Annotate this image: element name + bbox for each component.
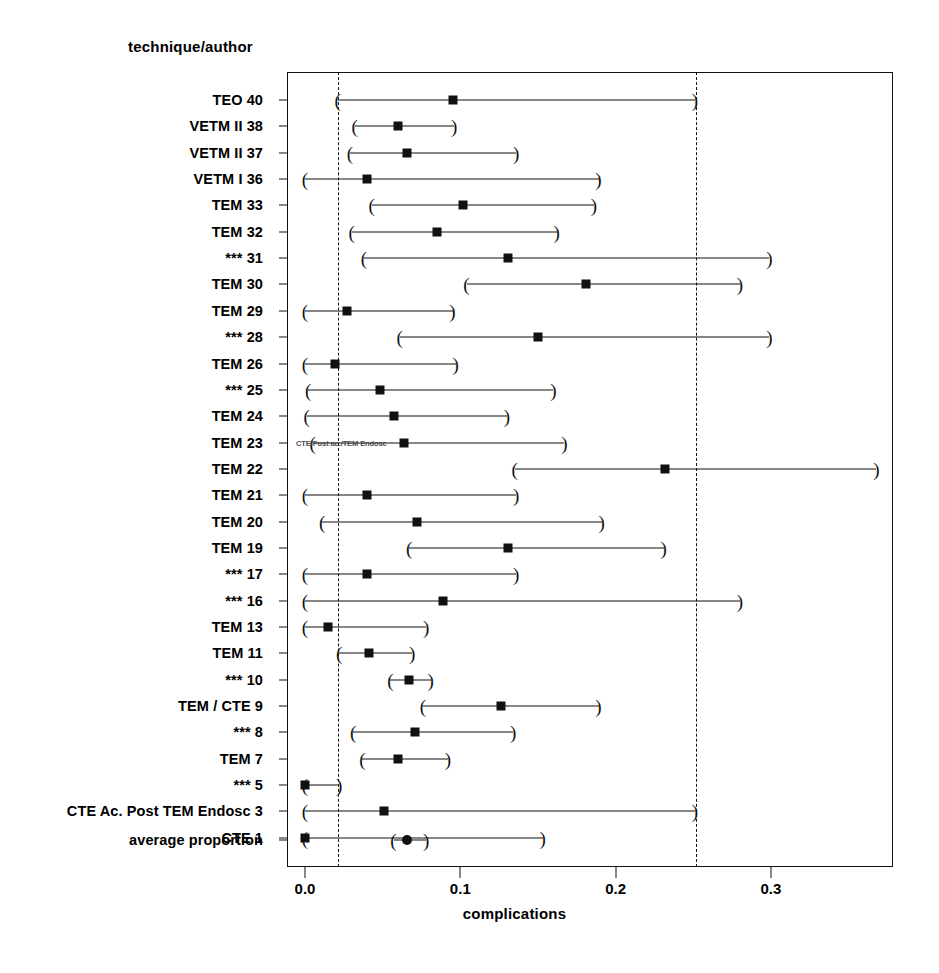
ci-line (305, 495, 516, 496)
point-estimate-marker (301, 781, 310, 790)
point-estimate-marker (364, 649, 373, 658)
ci-line (322, 521, 602, 522)
ci-line (400, 337, 770, 338)
ci-upper-cap: ) (595, 170, 601, 189)
x-axis-tick (770, 867, 771, 878)
ci-row: () (0, 617, 939, 637)
ci-line (305, 785, 339, 786)
ci-row: () (0, 459, 939, 479)
ci-line (362, 758, 447, 759)
ci-line (353, 732, 513, 733)
ci-lower-cap: ( (511, 459, 517, 478)
ci-lower-cap: ( (390, 831, 396, 850)
ci-row: () (0, 830, 939, 850)
point-estimate-marker (363, 175, 372, 184)
ci-lower-cap: ( (348, 222, 354, 241)
ci-row: () (0, 301, 939, 321)
x-axis-tick-label: 0.2 (605, 880, 626, 897)
point-estimate-marker (394, 122, 403, 131)
point-estimate-marker (342, 306, 351, 315)
ci-upper-cap: ) (766, 328, 772, 347)
ci-row: () (0, 670, 939, 690)
ci-lower-cap: ( (302, 565, 308, 584)
point-estimate-marker (400, 438, 409, 447)
ci-row: () (0, 195, 939, 215)
ci-lower-cap: ( (350, 723, 356, 742)
ci-upper-cap: ) (449, 301, 455, 320)
ci-line (338, 100, 695, 101)
ci-lower-cap: ( (302, 170, 308, 189)
ci-upper-cap: ) (561, 433, 567, 452)
point-estimate-marker (504, 254, 513, 263)
ci-upper-cap: ) (737, 275, 743, 294)
x-axis-tick (460, 867, 461, 878)
ci-line (307, 416, 507, 417)
ci-upper-cap: ) (513, 143, 519, 162)
ci-line (515, 468, 877, 469)
point-estimate-marker (405, 675, 414, 684)
ci-upper-cap: ) (553, 222, 559, 241)
ci-line (305, 363, 456, 364)
point-estimate-marker (533, 333, 542, 342)
ci-lower-cap: ( (302, 354, 308, 373)
ci-line (467, 284, 740, 285)
ci-upper-cap: ) (692, 802, 698, 821)
ci-lower-cap: ( (302, 618, 308, 637)
ci-upper-cap: ) (409, 644, 415, 663)
ci-lower-cap: ( (361, 249, 367, 268)
x-axis-title-text: complications (463, 905, 566, 922)
ci-lower-cap: ( (336, 644, 342, 663)
point-estimate-marker (439, 596, 448, 605)
ci-lower-cap: ( (463, 275, 469, 294)
ci-upper-cap: ) (595, 697, 601, 716)
ci-upper-cap: ) (692, 91, 698, 110)
ci-upper-cap: ) (423, 618, 429, 637)
point-estimate-marker (389, 412, 398, 421)
ci-row: () (0, 274, 939, 294)
point-estimate-marker (394, 754, 403, 763)
ci-line (305, 574, 516, 575)
ci-lower-cap: ( (420, 697, 426, 716)
ci-row: () (0, 749, 939, 769)
point-estimate-marker (375, 385, 384, 394)
ci-lower-cap: ( (305, 380, 311, 399)
point-estimate-marker (403, 148, 412, 157)
ci-row: () (0, 643, 939, 663)
ci-row: () (0, 564, 939, 584)
point-estimate-marker (496, 702, 505, 711)
ci-line (305, 310, 453, 311)
ci-row: () (0, 406, 939, 426)
point-estimate-marker (504, 543, 513, 552)
ci-line (372, 205, 594, 206)
ci-upper-cap: ) (873, 459, 879, 478)
x-axis-tick-label: 0.1 (450, 880, 471, 897)
ci-lower-cap: ( (302, 591, 308, 610)
ci-upper-cap: ) (423, 831, 429, 850)
ci-upper-cap: ) (737, 591, 743, 610)
point-estimate-marker (324, 623, 333, 632)
ci-lower-cap: ( (303, 407, 309, 426)
ci-row: () (0, 222, 939, 242)
ci-line (308, 389, 553, 390)
ci-lower-cap: ( (359, 749, 365, 768)
point-estimate-marker (412, 517, 421, 526)
ci-line (355, 126, 454, 127)
ci-lower-cap: ( (302, 802, 308, 821)
ci-upper-cap: ) (445, 749, 451, 768)
point-estimate-marker (363, 570, 372, 579)
ci-line (305, 179, 599, 180)
x-axis-tick (305, 867, 306, 878)
ci-upper-cap: ) (504, 407, 510, 426)
ci-lower-cap: ( (302, 301, 308, 320)
ci-upper-cap: ) (661, 538, 667, 557)
x-axis-title: complications (0, 905, 939, 922)
ci-row: () (0, 354, 939, 374)
ci-lower-cap: ( (319, 512, 325, 531)
x-axis-tick-label: 0.0 (295, 880, 316, 897)
ci-line (352, 231, 557, 232)
ci-row: () (0, 116, 939, 136)
ci-row: () (0, 775, 939, 795)
ci-upper-cap: ) (550, 380, 556, 399)
ci-line (364, 258, 769, 259)
ci-row: () (0, 380, 939, 400)
